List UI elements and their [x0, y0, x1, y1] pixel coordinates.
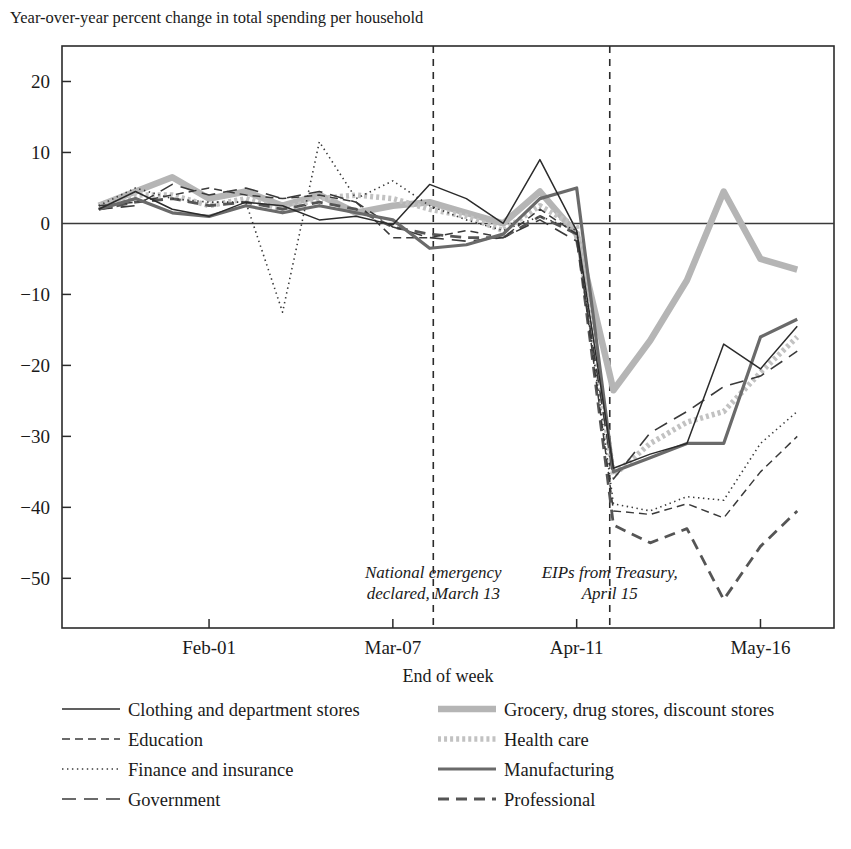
series-line: [99, 177, 797, 390]
legend-label: Clothing and department stores: [128, 700, 360, 720]
plot-frame: [62, 46, 834, 628]
y-tick-label: −50: [20, 568, 50, 589]
y-tick-label: −20: [20, 355, 50, 376]
x-tick-label: Mar-07: [365, 637, 422, 658]
y-tick-label: 20: [31, 71, 50, 92]
series-line: [99, 195, 797, 475]
legend-label: Manufacturing: [504, 760, 614, 780]
legend-label: Finance and insurance: [128, 760, 293, 780]
series-line: [99, 188, 797, 518]
event-marker-lines: [433, 46, 609, 628]
series-lines: [99, 142, 797, 600]
annotation-text: declared, March 13: [367, 584, 500, 603]
legend-label: Education: [128, 730, 203, 750]
plot-annotations: National emergencydeclared, March 13EIPs…: [364, 563, 678, 603]
y-tick-label: 10: [31, 142, 50, 163]
annotation-text: National emergency: [364, 563, 502, 582]
x-tick-label: Feb-01: [182, 637, 236, 658]
x-axis-title: End of week: [403, 666, 494, 686]
x-axis-ticks: Feb-01Mar-07Apr-11May-16: [182, 619, 790, 658]
annotation-text: EIPs from Treasury,: [541, 563, 678, 582]
y-tick-label: 0: [41, 213, 51, 234]
legend-label: Government: [128, 790, 221, 810]
annotation-text: April 15: [581, 584, 638, 603]
chart-plot-area: 20100−10−20−30−40−50 Feb-01Mar-07Apr-11M…: [0, 0, 851, 849]
x-tick-label: May-16: [730, 637, 790, 658]
chart-page: Year-over-year percent change in total s…: [0, 0, 851, 849]
y-tick-label: −40: [20, 497, 50, 518]
legend-label: Professional: [504, 790, 595, 810]
series-line: [99, 184, 797, 479]
y-tick-label: −10: [20, 284, 50, 305]
y-axis-ticks: 20100−10−20−30−40−50: [20, 71, 71, 589]
legend-label: Grocery, drug stores, discount stores: [504, 700, 774, 720]
x-tick-label: Apr-11: [550, 637, 604, 658]
chart-legend: Clothing and department storesEducationF…: [62, 700, 774, 810]
y-tick-label: −30: [20, 426, 50, 447]
legend-label: Health care: [504, 730, 589, 750]
